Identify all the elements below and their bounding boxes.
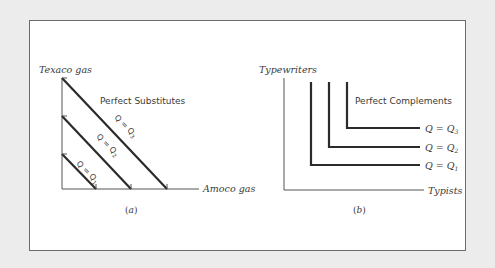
isoquant-label-q3: Q = Q3 bbox=[425, 123, 459, 135]
indifference-lines bbox=[62, 78, 167, 189]
panel-a: Texaco gas Amoco gas Perfect Substitutes… bbox=[39, 64, 255, 215]
panel-b-y-axis-label: Typewriters bbox=[259, 64, 317, 75]
panel-a-x-axis-label: Amoco gas bbox=[202, 183, 255, 194]
figure-canvas: Texaco gas Amoco gas Perfect Substitutes… bbox=[0, 0, 495, 268]
isoquant-lines bbox=[311, 82, 420, 165]
panel-b-x-axis-label: Typists bbox=[428, 185, 463, 196]
complement-isoquant-q2 bbox=[329, 82, 420, 147]
panel-b-caption: Perfect Complements bbox=[355, 96, 452, 106]
curve-label-q1: Q = Q1 bbox=[74, 159, 101, 186]
figure-page: Texaco gas Amoco gas Perfect Substitutes… bbox=[0, 0, 495, 268]
svg-text:Q = Q1: Q = Q1 bbox=[74, 159, 101, 186]
panel-b: Typewriters Typists Perfect Complements … bbox=[259, 64, 463, 215]
panel-a-caption: Perfect Substitutes bbox=[100, 96, 186, 106]
panel-b-label: (b) bbox=[353, 205, 366, 215]
panel-a-y-axis-label: Texaco gas bbox=[39, 64, 92, 75]
isoquant-label-q2: Q = Q2 bbox=[425, 142, 459, 154]
complement-isoquant-q1 bbox=[311, 82, 420, 165]
isoquant-label-q1: Q = Q1 bbox=[425, 160, 458, 172]
panel-a-label: (a) bbox=[125, 205, 137, 215]
